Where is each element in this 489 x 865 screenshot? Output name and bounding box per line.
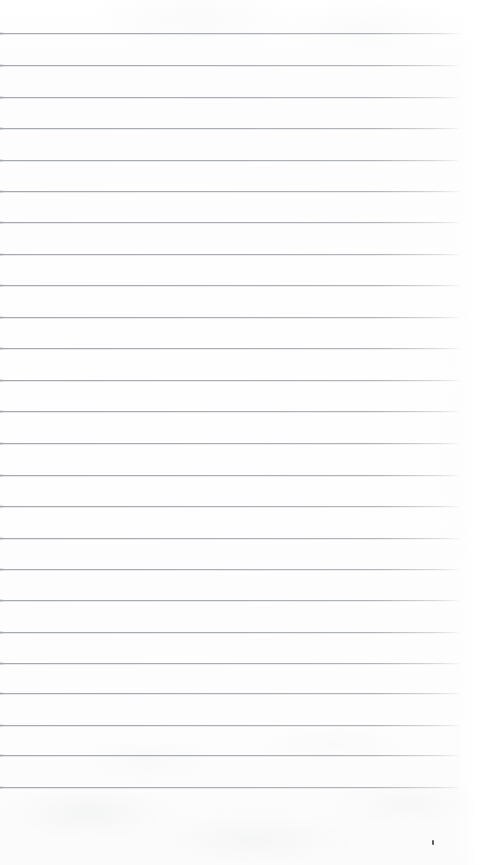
rule-line [0,755,459,756]
rule-line [0,663,459,664]
rule-line [0,65,459,66]
rule-line [0,600,459,601]
rule-left-edge-cap [0,379,5,382]
rule-left-edge-cap [0,410,5,413]
rule-left-edge-cap [0,631,5,634]
rule-left-edge-cap [0,505,5,508]
rule-line [0,787,459,788]
rule-left-edge-cap [0,442,5,445]
rule-line [0,443,459,444]
rule-line [0,128,459,129]
ruled-lines-layer [0,0,489,865]
rule-left-edge-cap [0,253,5,256]
rule-line [0,569,459,570]
rule-line [0,693,459,694]
rule-left-edge-cap [0,96,5,99]
rule-line [0,538,459,539]
rule-left-edge-cap [0,32,5,35]
rule-line [0,411,459,412]
rule-line [0,632,459,633]
rule-left-edge-cap [0,64,5,67]
ink-speck [432,840,434,845]
rule-left-edge-cap [0,537,5,540]
rule-left-edge-cap [0,662,5,665]
rule-line [0,33,459,34]
rule-left-edge-cap [0,159,5,162]
rule-line [0,222,459,223]
rule-left-edge-cap [0,190,5,193]
rule-line [0,160,459,161]
rule-left-edge-cap [0,347,5,350]
rule-line [0,348,459,349]
rule-left-edge-cap [0,127,5,130]
rule-left-edge-cap [0,599,5,602]
rule-left-edge-cap [0,724,5,727]
rule-left-edge-cap [0,221,5,224]
rule-left-edge-cap [0,692,5,695]
rule-left-edge-cap [0,316,5,319]
rule-line [0,506,459,507]
rule-left-edge-cap [0,786,5,789]
rule-line [0,254,459,255]
scanned-page [0,0,489,865]
rule-left-edge-cap [0,754,5,757]
rule-line [0,317,459,318]
rule-line [0,725,459,726]
rule-left-edge-cap [0,284,5,287]
rule-left-edge-cap [0,474,5,477]
rule-line [0,475,459,476]
rule-line [0,191,459,192]
rule-line [0,380,459,381]
rule-line [0,97,459,98]
rule-line [0,285,459,286]
rule-left-edge-cap [0,568,5,571]
